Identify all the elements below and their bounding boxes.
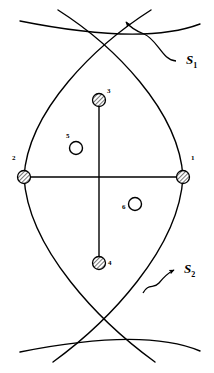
node-2-label: 2: [12, 154, 16, 162]
node-6-label: 6: [122, 203, 126, 211]
surface-s1-label: S1: [186, 52, 197, 70]
node-6-marker[interactable]: [129, 198, 142, 211]
surface-s2-label: S2: [184, 261, 195, 279]
node-4-marker[interactable]: [93, 257, 106, 270]
surface-arcs: [20, 10, 200, 362]
lens-right-arc: [53, 10, 183, 362]
node-2-marker[interactable]: [18, 171, 31, 184]
node-1-label: 1: [191, 154, 195, 162]
node-4-label: 4: [108, 259, 112, 267]
hatched-nodes: [18, 94, 190, 270]
node-3-marker[interactable]: [93, 94, 106, 107]
node-5-label: 5: [66, 132, 70, 140]
node-5-marker[interactable]: [70, 142, 83, 155]
surface-s1-arc: [20, 21, 200, 34]
s1-leader-line: [126, 22, 176, 61]
surface-s2-subscript: 2: [191, 270, 195, 279]
s2-leader-line: [143, 270, 174, 293]
node-3-label: 3: [107, 87, 111, 95]
surface-s1-subscript: 1: [193, 61, 197, 70]
surface-s2-arc: [20, 339, 200, 352]
open-nodes: [70, 142, 142, 211]
figure-canvas: [0, 0, 214, 373]
figure-container: 1 2 3 4 5 6 S1 S2: [0, 0, 214, 373]
connector-lines: [24, 100, 183, 263]
lens-left-arc: [24, 10, 155, 362]
node-1-marker[interactable]: [177, 171, 190, 184]
surface-leader-lines: [126, 22, 176, 293]
